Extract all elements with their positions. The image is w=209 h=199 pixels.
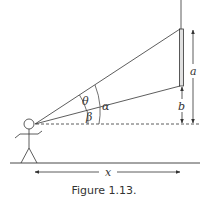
person-icon <box>15 119 42 163</box>
theta-label: θ <box>82 95 89 108</box>
picture-rect <box>180 29 184 86</box>
beta-label: β <box>85 111 92 124</box>
x-label: x <box>105 166 112 179</box>
alpha-label: α <box>102 100 110 113</box>
figure-diagram: θ β α a b x Figure 1.13. <box>0 0 209 199</box>
figure-caption: Figure 1.13. <box>71 184 136 197</box>
alpha-arc <box>95 85 100 106</box>
b-label: b <box>178 100 185 113</box>
beta-arc-outer <box>99 107 100 125</box>
a-label: a <box>190 65 197 78</box>
